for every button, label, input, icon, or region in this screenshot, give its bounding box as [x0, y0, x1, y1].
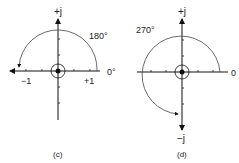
label-minus-one: −1	[21, 76, 31, 86]
caption-d: (d)	[177, 150, 187, 159]
origin-dot	[180, 70, 185, 75]
caption-c: (c)	[53, 150, 63, 159]
label-plus-j: +j	[178, 6, 186, 17]
rotation-arc	[142, 36, 220, 114]
label-angle: 270°	[136, 25, 155, 35]
label-angle: 180°	[89, 31, 108, 41]
origin-dot	[56, 69, 61, 74]
panel-c: +j 180° 0° −1 +1 (c)	[10, 6, 116, 159]
label-plus-one: +1	[84, 76, 94, 86]
label-plus-j: +j	[54, 6, 62, 17]
label-zero: 0	[231, 68, 236, 78]
label-zero: 0°	[107, 67, 116, 77]
label-minus-j: −j	[177, 133, 185, 144]
phasor-rotation-diagrams: +j 180° 0° −1 +1 (c) +j 270° 0 −j (d)	[0, 0, 239, 163]
panel-d: +j 270° 0 −j (d)	[136, 6, 236, 159]
